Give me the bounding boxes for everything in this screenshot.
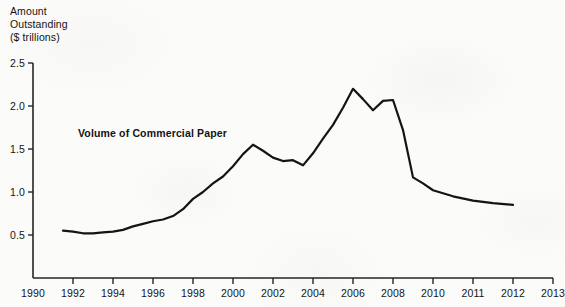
y-axis-tick-label: 1.0 <box>10 186 25 198</box>
x-axis-tick-label: 2013 <box>541 287 565 299</box>
x-axis-tick-label: 1990 <box>21 287 45 299</box>
series-annotation-layer: Volume of Commercial Paper <box>78 127 227 139</box>
x-axis-tick-label: 1994 <box>101 287 125 299</box>
series-annotation-text: Volume of Commercial Paper <box>78 127 227 139</box>
x-axis-tick-label: 2008 <box>381 287 405 299</box>
y-axis-tick-label: 0.5 <box>10 229 25 241</box>
x-axis-tick-label: 1996 <box>141 287 165 299</box>
x-axis-tick-label: 2010 <box>421 287 445 299</box>
x-axis-tick-label: 2006 <box>341 287 365 299</box>
x-axis-tick-label: 1998 <box>181 287 205 299</box>
x-axis: 1990199219941996199820002002200420062008… <box>21 278 565 299</box>
y-axis-tick-label: 2.0 <box>10 100 25 112</box>
x-axis-tick-label: 2002 <box>261 287 285 299</box>
y-axis-tick-label: 2.5 <box>10 57 25 69</box>
x-axis-tick-label: 2000 <box>221 287 245 299</box>
x-axis-tick-label: 1992 <box>61 287 85 299</box>
y-axis-tick-label: 1.5 <box>10 143 25 155</box>
x-axis-tick-label: 2011 <box>462 287 485 299</box>
y-axis: 0.51.01.52.02.5 <box>10 57 33 278</box>
commercial-paper-line <box>63 89 513 233</box>
commercial-paper-line-chart: 0.51.01.52.02.5 199019921994199619982000… <box>0 0 565 307</box>
data-series-line <box>63 89 513 233</box>
x-axis-tick-label: 2004 <box>301 287 325 299</box>
x-axis-tick-label: 2012 <box>501 287 525 299</box>
